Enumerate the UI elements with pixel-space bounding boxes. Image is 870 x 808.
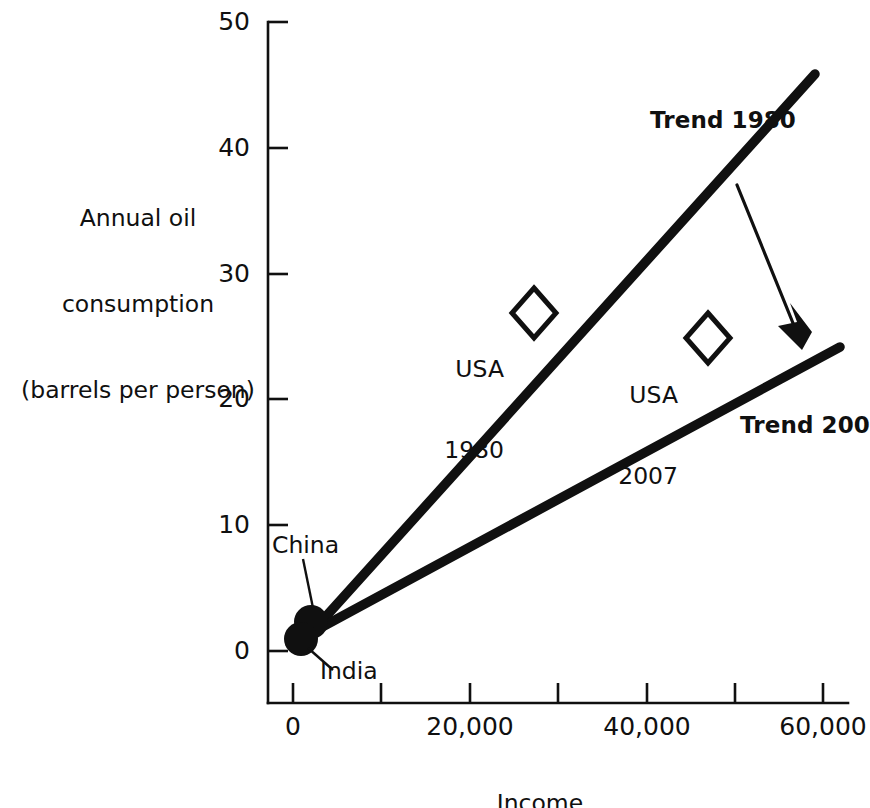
y-axis-label: Annual oil consumption (barrels per pers… xyxy=(18,148,258,462)
x-axis-ticks xyxy=(293,683,823,703)
point-label-usa-2007-line-1: USA xyxy=(582,382,678,409)
point-label-china: China xyxy=(272,532,339,560)
y-axis-label-line-3: (barrels per person) xyxy=(18,376,258,407)
point-label-india: India xyxy=(320,658,378,686)
leader-line-china xyxy=(303,559,313,608)
y-tick-label-10: 10 xyxy=(180,510,250,540)
trend-line-2007 xyxy=(311,347,840,633)
x-axis-label: Income (per capita GDP in 2007 dollars) xyxy=(330,733,750,808)
chart-figure: 50 40 30 20 10 0 0 20,000 40,000 60,000 … xyxy=(0,0,870,808)
trend-line-1980 xyxy=(311,74,815,633)
point-label-usa-1980: USA 1980 xyxy=(408,301,504,519)
shift-arrow xyxy=(737,185,812,350)
point-label-usa-1980-line-2: 1980 xyxy=(408,437,504,464)
y-tick-label-50: 50 xyxy=(180,7,250,37)
shift-arrow-shaft xyxy=(737,185,797,333)
point-label-usa-2007-line-2: 2007 xyxy=(582,463,678,490)
point-label-usa-1980-line-1: USA xyxy=(408,356,504,383)
y-axis-label-line-2: consumption xyxy=(18,290,258,321)
x-tick-label-60000: 60,000 xyxy=(753,712,870,742)
trend-label-2007: Trend 2007 xyxy=(740,412,870,439)
y-tick-label-0: 0 xyxy=(180,636,250,666)
y-axis-label-line-1: Annual oil xyxy=(18,203,258,234)
marker-usa-1980 xyxy=(512,288,556,338)
point-label-usa-2007: USA 2007 xyxy=(582,327,678,545)
marker-usa-2007 xyxy=(686,313,730,363)
x-axis-label-main: Income xyxy=(330,788,750,808)
shift-arrow-head xyxy=(778,303,812,350)
trend-label-1980: Trend 1980 xyxy=(650,107,796,134)
trend-lines xyxy=(311,74,840,633)
